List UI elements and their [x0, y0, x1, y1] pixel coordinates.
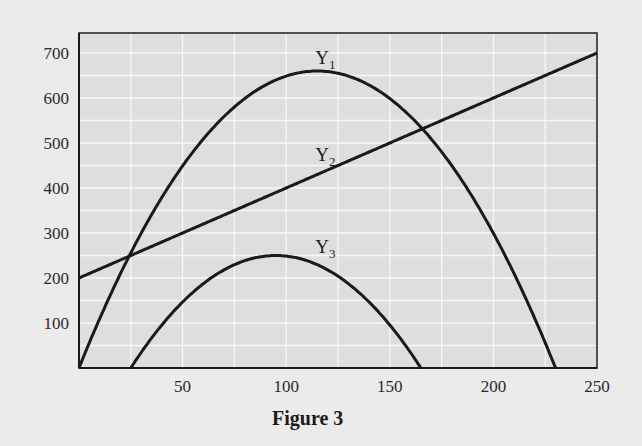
series-label-main: Y	[315, 236, 329, 257]
y-tick-label: 300	[44, 224, 70, 243]
y-tick-label: 100	[44, 314, 70, 333]
y-tick-label: 200	[44, 269, 70, 288]
y-tick-label: 500	[44, 134, 70, 153]
x-tick-label: 250	[584, 377, 610, 396]
y-tick-label: 700	[44, 44, 70, 63]
series-label-subscript: 3	[329, 246, 336, 261]
line-chart: 10020030040050060070050100150200250Y1Y2Y…	[0, 0, 642, 400]
x-tick-label: 100	[273, 377, 299, 396]
figure-caption-text: Figure 3	[272, 407, 343, 430]
series-label-main: Y	[315, 47, 329, 68]
x-tick-label: 200	[481, 377, 507, 396]
y-tick-label: 600	[44, 89, 70, 108]
series-label-subscript: 2	[329, 154, 336, 169]
x-tick-label: 150	[377, 377, 403, 396]
series-label-main: Y	[315, 144, 329, 165]
y-tick-label: 400	[44, 179, 70, 198]
series-label-subscript: 1	[329, 57, 336, 72]
figure: 10020030040050060070050100150200250Y1Y2Y…	[0, 0, 642, 446]
x-tick-label: 50	[174, 377, 191, 396]
